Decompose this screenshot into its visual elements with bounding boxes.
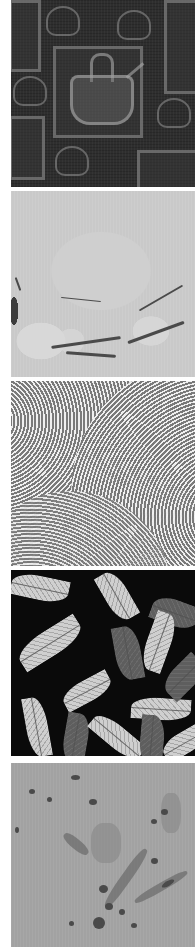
tissue-cell: [29, 789, 35, 794]
texture-tile-marble[interactable]: Light grey marbled paper: [11, 191, 195, 377]
leaf: [60, 711, 92, 756]
marble-vein: [66, 351, 116, 357]
leaf: [21, 696, 53, 756]
leaf: [138, 714, 166, 756]
marble-vein: [127, 321, 184, 344]
leaf: [111, 624, 146, 682]
watering-can-stamp-large: [53, 46, 143, 138]
stamp-square: [164, 0, 195, 94]
leaf: [130, 696, 191, 722]
tissue-cell: [99, 885, 108, 893]
tissue-cell: [105, 903, 113, 910]
tissue-cell: [71, 775, 80, 780]
texture-tile-moire[interactable]: White curved moire line pattern: [11, 381, 195, 566]
texture-tile-fabric[interactable]: Dark fabric with watering can stamp patt…: [11, 0, 195, 187]
tissue-streak: [91, 823, 121, 863]
tissue-cell: [15, 827, 19, 833]
marble-vein: [51, 336, 121, 349]
leaf: [11, 570, 71, 606]
stamp-square: [11, 0, 41, 72]
watering-can-icon: [157, 98, 191, 128]
watering-can-spout-icon: [126, 62, 145, 78]
tissue-cell: [131, 923, 137, 928]
stamp-square: [137, 150, 195, 187]
watering-can-icon: [55, 146, 89, 176]
texture-tile-leaves[interactable]: Skeleton leaves on black background: [11, 570, 195, 756]
texture-tile-tissue[interactable]: Grey cellular tissue texture: [11, 763, 195, 947]
tissue-cell: [89, 799, 97, 805]
tissue-cell: [93, 917, 105, 929]
tissue-cell: [119, 909, 125, 915]
tissue-cell: [69, 921, 74, 926]
tissue-cell: [47, 797, 52, 802]
tissue-cell: [161, 809, 168, 815]
watering-can-icon: [117, 10, 151, 40]
watering-can-icon: [13, 76, 47, 106]
stamp-square: [11, 116, 45, 180]
tissue-cell: [151, 858, 158, 864]
marble-vein: [15, 277, 22, 291]
leaf: [13, 613, 86, 672]
marble-vein: [61, 297, 101, 302]
leaf: [59, 669, 115, 713]
leaf: [94, 570, 141, 625]
watering-can-icon: [46, 6, 80, 36]
tissue-streak: [61, 831, 90, 858]
tissue-cell: [151, 819, 157, 824]
watering-can-icon: [70, 75, 134, 125]
marble-vein: [139, 285, 183, 312]
